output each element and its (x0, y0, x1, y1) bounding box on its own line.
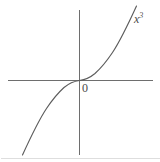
curve-label: x3 (134, 12, 143, 25)
cubic-function-figure: x3 0 (0, 0, 160, 162)
origin-label: 0 (82, 82, 88, 94)
curve-label-exponent: 3 (139, 11, 143, 20)
